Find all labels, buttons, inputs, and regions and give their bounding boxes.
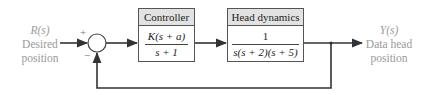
- input-desc-line2: position: [10, 51, 70, 65]
- summing-junction: [88, 34, 106, 52]
- output-desc-line2: position: [359, 51, 419, 65]
- controller-title: Controller: [139, 9, 194, 26]
- minus-sign: −: [84, 49, 90, 61]
- output-symbol: Y(s): [359, 23, 419, 37]
- head-dynamics-transfer-function: 1 s(s + 2)(s + 5): [228, 26, 303, 59]
- head-dynamics-block: Head dynamics 1 s(s + 2)(s + 5): [227, 8, 304, 62]
- input-label: R(s) Desired position: [10, 23, 70, 65]
- head-dynamics-title: Head dynamics: [228, 9, 303, 26]
- controller-denominator: s + 1: [139, 46, 194, 59]
- fraction-bar: [232, 44, 299, 45]
- input-symbol: R(s): [10, 23, 70, 37]
- head-dynamics-numerator: 1: [228, 30, 303, 43]
- controller-block: Controller K(s + a) s + 1: [138, 8, 195, 62]
- output-label: Y(s) Data head position: [359, 23, 419, 65]
- head-dynamics-denominator: s(s + 2)(s + 5): [228, 46, 303, 59]
- fraction-bar: [145, 44, 188, 45]
- input-desc-line1: Desired: [10, 37, 70, 51]
- controller-transfer-function: K(s + a) s + 1: [139, 26, 194, 59]
- output-desc-line1: Data head: [359, 37, 419, 51]
- controller-numerator: K(s + a): [139, 30, 194, 43]
- plus-sign: +: [80, 26, 86, 38]
